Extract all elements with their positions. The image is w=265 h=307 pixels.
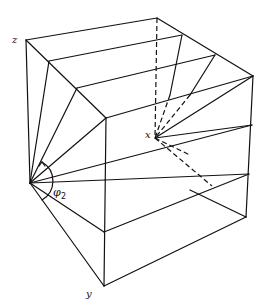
step2-to-x-solid	[190, 55, 215, 95]
edge-right-lower-diag	[190, 190, 246, 217]
edge-front-top	[106, 76, 253, 118]
solid-edges	[26, 18, 253, 286]
edge-top-right	[157, 18, 253, 76]
box-fan-diagram: z y x φ 2	[0, 0, 265, 307]
hidden-step2-to-x	[155, 95, 190, 138]
edge-band-upper	[105, 174, 249, 180]
hidden-back-vertical	[155, 18, 157, 138]
z-label: z	[11, 34, 18, 45]
edge-step-2	[77, 55, 215, 88]
phi-label: φ	[53, 186, 61, 199]
edge-front-vertical	[104, 118, 106, 286]
x-to-right-mid	[155, 125, 252, 138]
edge-top-back	[26, 18, 157, 40]
edge-vertex-to-232	[30, 183, 104, 232]
phi-subscript: 2	[61, 192, 66, 201]
hidden-x-to-bottom	[155, 138, 212, 186]
edge-z-vertical	[26, 40, 30, 183]
edge-vertex-to-y	[30, 183, 104, 286]
edge-band-lower	[104, 174, 249, 232]
edge-right-vertical	[246, 76, 253, 217]
edge-bottom-front	[104, 217, 246, 286]
edge-step-1	[49, 35, 182, 61]
angle-marker	[39, 162, 53, 200]
y-label: y	[85, 288, 92, 299]
x-label: x	[145, 129, 151, 140]
hidden-x-to-right	[155, 138, 190, 155]
